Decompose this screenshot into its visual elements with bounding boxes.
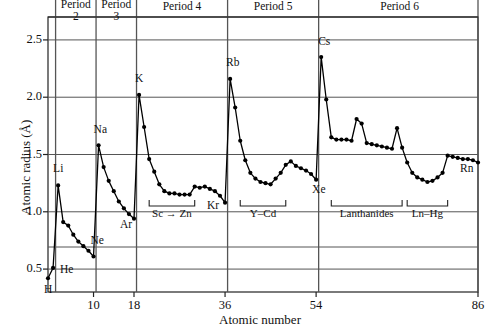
data-point-14 xyxy=(112,189,116,193)
point-label-He: He xyxy=(60,264,73,276)
data-point-21 xyxy=(147,157,151,161)
data-point-77 xyxy=(430,179,434,183)
data-point-31 xyxy=(198,186,202,190)
data-point-30 xyxy=(193,184,197,188)
data-point-34 xyxy=(213,189,217,193)
data-point-63 xyxy=(360,121,364,125)
xtick-label-86: 86 xyxy=(462,299,494,312)
data-point-6 xyxy=(71,233,75,237)
data-line xyxy=(48,57,478,278)
ytick-label-0.5: 0.5 xyxy=(6,262,42,275)
bracket-label-1: Y–Cd xyxy=(203,208,323,219)
point-label-Cs: Cs xyxy=(318,36,330,48)
data-point-74 xyxy=(415,175,419,179)
data-point-8 xyxy=(81,244,85,248)
data-point-69 xyxy=(390,147,394,151)
point-label-Xe: Xe xyxy=(312,184,325,196)
data-point-67 xyxy=(380,144,384,148)
point-label-Rb: Rb xyxy=(226,57,239,69)
point-label-Li: Li xyxy=(53,163,63,175)
data-point-52 xyxy=(304,168,308,172)
data-point-83 xyxy=(461,157,465,161)
data-point-2 xyxy=(51,266,55,270)
data-point-39 xyxy=(238,139,242,143)
data-point-57 xyxy=(329,135,333,139)
y-axis-label: Atomic radius (Å) xyxy=(18,120,34,215)
data-point-12 xyxy=(102,165,106,169)
xtick-label-54: 54 xyxy=(300,299,332,312)
data-point-29 xyxy=(188,193,192,197)
data-point-81 xyxy=(451,155,455,159)
bracket-2 xyxy=(331,200,402,206)
data-point-11 xyxy=(96,143,100,147)
data-point-40 xyxy=(243,158,247,162)
data-point-32 xyxy=(203,184,207,188)
data-point-47 xyxy=(279,171,283,175)
data-point-1 xyxy=(46,276,50,280)
data-point-25 xyxy=(167,191,171,195)
point-label-Rn: Rn xyxy=(460,163,473,175)
data-point-35 xyxy=(218,194,222,198)
ytick-label-2.5: 2.5 xyxy=(6,33,42,46)
xtick-label-36: 36 xyxy=(209,299,241,312)
xtick-label-18: 18 xyxy=(118,299,150,312)
period-band-title-5: Period 5 xyxy=(233,1,313,13)
data-point-5 xyxy=(66,223,70,227)
data-point-22 xyxy=(152,170,156,174)
bracket-label-3: Ln–Hg xyxy=(367,208,487,219)
data-point-50 xyxy=(294,164,298,168)
data-point-42 xyxy=(253,176,257,180)
data-point-37 xyxy=(228,77,232,81)
period-band-title-6: Period 6 xyxy=(360,1,440,13)
ytick-label-2: 2.0 xyxy=(6,90,42,103)
data-point-24 xyxy=(162,189,166,193)
data-point-59 xyxy=(339,138,343,142)
data-point-27 xyxy=(177,193,181,197)
data-point-73 xyxy=(410,171,414,175)
data-point-80 xyxy=(446,154,450,158)
point-label-Ne: Ne xyxy=(91,235,104,247)
data-point-70 xyxy=(395,126,399,130)
data-point-65 xyxy=(370,142,374,146)
data-point-48 xyxy=(284,163,288,167)
data-point-58 xyxy=(334,138,338,142)
data-point-13 xyxy=(107,179,111,183)
data-point-15 xyxy=(117,199,121,203)
data-point-41 xyxy=(248,171,252,175)
data-point-82 xyxy=(456,156,460,160)
data-point-44 xyxy=(263,181,267,185)
data-point-23 xyxy=(157,182,161,186)
point-label-K: K xyxy=(135,73,143,85)
data-point-4 xyxy=(61,220,65,224)
bracket-1 xyxy=(240,200,286,206)
data-point-53 xyxy=(309,172,313,176)
data-point-86 xyxy=(476,160,480,164)
bracket-3 xyxy=(407,200,447,206)
data-point-75 xyxy=(420,178,424,182)
data-point-10 xyxy=(91,254,95,258)
data-point-55 xyxy=(319,55,323,59)
data-point-76 xyxy=(425,180,429,184)
data-point-51 xyxy=(299,166,303,170)
chart-canvas xyxy=(0,0,497,335)
data-point-20 xyxy=(142,125,146,129)
data-point-68 xyxy=(385,146,389,150)
data-point-62 xyxy=(354,117,358,121)
data-point-28 xyxy=(182,193,186,197)
data-point-84 xyxy=(466,157,470,161)
data-point-43 xyxy=(258,180,262,184)
atomic-radius-chart: 0.51.01.52.02.51018365486Period2Period3P… xyxy=(0,0,497,335)
data-point-72 xyxy=(405,160,409,164)
data-point-45 xyxy=(268,182,272,186)
data-point-60 xyxy=(344,138,348,142)
point-label-Na: Na xyxy=(94,124,107,136)
data-point-54 xyxy=(314,178,318,182)
data-point-79 xyxy=(440,171,444,175)
data-point-7 xyxy=(76,239,80,243)
data-point-36 xyxy=(223,201,227,205)
data-point-61 xyxy=(349,139,353,143)
data-point-46 xyxy=(274,176,278,180)
data-point-49 xyxy=(289,159,293,163)
data-point-78 xyxy=(435,175,439,179)
data-point-33 xyxy=(208,187,212,191)
